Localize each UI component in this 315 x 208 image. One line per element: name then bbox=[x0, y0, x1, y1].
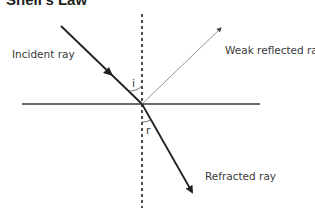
angle-r-label: r bbox=[146, 124, 151, 137]
refracted-ray-label: Refracted ray bbox=[205, 170, 276, 182]
angle-i-arc bbox=[129, 86, 142, 91]
incident-ray-label: Incident ray bbox=[12, 48, 75, 60]
angle-i-label: i bbox=[132, 77, 135, 90]
refracted-ray bbox=[142, 104, 192, 192]
reflected-ray bbox=[142, 28, 221, 104]
angle-r-arc bbox=[142, 120, 151, 122]
reflected-ray-label: Weak reflected ray bbox=[225, 44, 315, 56]
incident-ray bbox=[61, 26, 142, 104]
